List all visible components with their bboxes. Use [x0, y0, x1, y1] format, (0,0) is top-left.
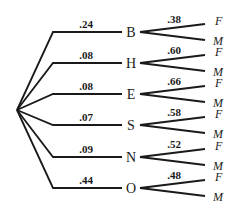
sub-branch-line-f	[140, 24, 205, 32]
branch-line	[17, 32, 122, 110]
sub-branch-line-f	[140, 149, 205, 157]
leaf-label-f: F	[214, 107, 223, 121]
leaf-label-f: F	[214, 139, 223, 153]
branch-probability: .24	[79, 18, 93, 30]
sub-branch-probability: .48	[167, 169, 181, 181]
branch-line	[17, 110, 122, 125]
branch-line	[17, 110, 122, 188]
leaf-label-m: M	[212, 190, 224, 204]
sub-branch-line-f	[140, 86, 205, 94]
node-label: H	[126, 56, 136, 71]
probability-tree: .24B.38FM.08H.60FM.08E.66FM.07S.58FM.09N…	[0, 0, 235, 206]
leaf-label-f: F	[214, 45, 223, 59]
leaf-label-f: F	[214, 76, 223, 90]
leaf-label-f: F	[214, 170, 223, 184]
leaf-label-f: F	[214, 14, 223, 28]
node-label: N	[126, 150, 136, 165]
branch-probability: .44	[79, 174, 93, 186]
sub-branch-probability: .66	[167, 75, 181, 87]
sub-branch-line-m	[140, 63, 205, 71]
sub-branch-line-m	[140, 32, 205, 40]
branch-line	[17, 94, 122, 110]
sub-branch-line-m	[140, 94, 205, 102]
sub-branch-probability: .58	[167, 106, 181, 118]
sub-branch-line-f	[140, 117, 205, 125]
sub-branch-probability: .60	[167, 44, 181, 56]
sub-branch-probability: .38	[167, 13, 181, 25]
sub-branch-line-m	[140, 125, 205, 133]
branch-probability: .08	[79, 80, 93, 92]
sub-branch-line-m	[140, 157, 205, 165]
sub-branch-line-f	[140, 55, 205, 63]
branch-probability: .07	[79, 111, 93, 123]
sub-branch-probability: .52	[167, 138, 181, 150]
branch-probability: .08	[79, 49, 93, 61]
node-label: O	[126, 181, 136, 196]
node-label: B	[126, 25, 135, 40]
sub-branch-line-m	[140, 188, 205, 196]
branch-probability: .09	[79, 143, 93, 155]
node-label: S	[127, 118, 135, 133]
node-label: E	[127, 87, 136, 102]
sub-branch-line-f	[140, 180, 205, 188]
